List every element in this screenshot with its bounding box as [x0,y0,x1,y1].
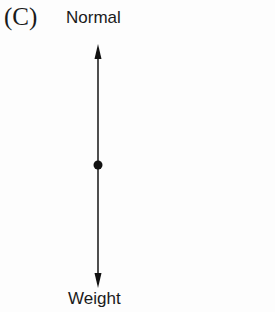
arrowhead-down-icon [95,273,102,288]
force-arrows [0,0,275,312]
arrowhead-up-icon [95,44,102,59]
normal-force-arrow [95,44,102,165]
object-dot [94,161,103,170]
weight-force-arrow [95,165,102,288]
free-body-diagram: (C) Normal Weight [0,0,275,312]
weight-force-label: Weight [68,289,121,309]
